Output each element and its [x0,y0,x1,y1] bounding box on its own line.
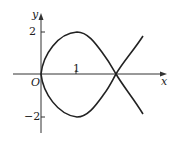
x-axis-label: x [161,76,167,87]
y-tick-label-neg2: −2 [24,111,40,122]
curve-lower-branch [41,74,143,117]
y-axis-label: y [32,9,38,20]
y-tick-label-2: 2 [29,26,36,37]
curve-upper-branch [41,32,143,74]
origin-label: O [31,77,40,88]
x-tick-label-1: 1 [73,63,80,74]
y-axis-arrow-icon [39,13,44,20]
